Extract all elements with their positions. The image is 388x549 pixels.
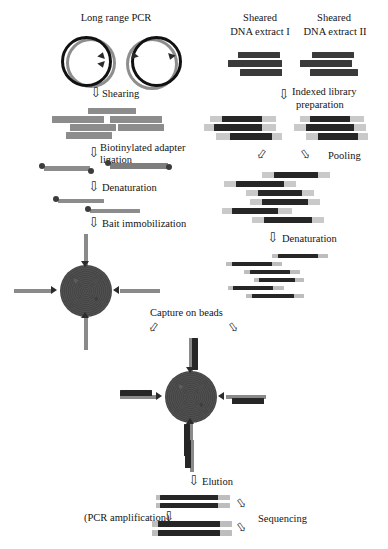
arrow-capture-left-icon: ⇩ [145,319,161,336]
capture-on-beads-label: Capture on beads [150,307,223,319]
capture-connector-top [186,367,194,373]
arrow-pooling-left-icon: ⇩ [253,146,269,163]
magnetic-bead [60,265,112,317]
arrow-down-elution-icon: ⇩ [188,474,199,487]
shearing-label: Shearing [102,88,139,100]
bait-arm-bottom [84,314,88,350]
sheared-extract-2-label-line1: Sheared [292,12,376,24]
arrow-down-indexed-library-icon: ⇩ [278,88,289,101]
workflow-diagram: Long range PCR ⇩ Shearing ⇩ Biotinylated… [0,0,388,549]
captured-fragment-right [232,398,264,404]
bait-connector-bottom [81,312,89,318]
bait-arm-right [120,289,160,293]
capture-connector-right [218,392,224,400]
bait-connector-right [113,286,119,294]
biotin-dot [53,196,59,202]
arrow-down-denaturation-left-icon: ⇩ [88,180,99,193]
bait-immobilization-label: Bait immobilization [102,218,186,230]
denaturation-left-label: Denaturation [102,182,157,194]
biotin-dot [39,163,45,169]
arrow-down-ligation-icon: ⇩ [88,146,99,159]
indexed-library-label-line1: Indexed library [292,86,356,98]
bait-connector-left [51,286,57,294]
captured-fragment-top [192,338,198,370]
captured-fragment-left [120,390,152,396]
pooling-label: Pooling [328,150,361,162]
arrow-capture-right-icon: ⇩ [225,319,241,336]
arrow-sequencing-lower-icon: ⇩ [233,519,249,536]
capture-connector-bottom [186,418,194,424]
biotin-dot [85,206,91,212]
arrow-down-denaturation-right-icon: ⇩ [267,231,278,244]
biotin-dot [166,164,172,170]
denaturation-right-label: Denaturation [282,233,337,245]
sequencing-label: Sequencing [258,513,307,525]
sheared-extract-1-label-line1: Sheared [218,12,302,24]
sheared-extract-2-label-line2: DNA extract II [286,26,384,38]
biotin-dot [88,168,94,174]
arrow-pooling-right-icon: ⇩ [297,146,313,163]
biotin-dot [105,160,111,166]
capture-connector-left [156,392,162,400]
arrow-down-shearing-icon: ⇩ [90,86,101,99]
elution-label: Elution [202,476,233,488]
bait-arm-left [14,289,52,293]
bait-connector-top [81,261,89,267]
indexed-library-label-line2: preparation [296,99,344,111]
magnetic-bead [165,371,217,423]
arrow-sequencing-upper-icon: ⇩ [233,495,249,512]
arrow-down-bait-immobilization-icon: ⇩ [88,216,99,229]
adapter-ligation-label-line1: Biotinylated adapter [100,142,185,154]
long-range-pcr-label: Long range PCR [56,12,176,24]
